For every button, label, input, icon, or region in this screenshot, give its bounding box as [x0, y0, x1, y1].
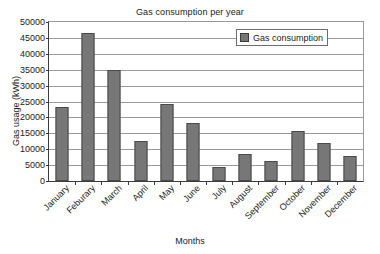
bar-slot [128, 22, 154, 181]
bar [291, 131, 304, 181]
x-axis-title: Months [0, 236, 380, 246]
y-axis-tick-label: 40000 [20, 49, 45, 59]
bar [56, 107, 69, 181]
legend: Gas consumption [236, 29, 328, 46]
x-axis-tick-label: June [181, 183, 202, 204]
bar-slot [206, 22, 232, 181]
y-axis-tick-label: 45000 [20, 33, 45, 43]
bar-slot [337, 22, 363, 181]
x-axis-tick-label: May [157, 183, 176, 202]
bar [134, 141, 147, 181]
y-axis-tick-label: 50000 [20, 17, 45, 27]
bar [82, 33, 95, 181]
y-axis-tick-label: 0 [40, 176, 45, 186]
bar-slot [154, 22, 180, 181]
x-axis-tick-label: July [210, 183, 228, 201]
legend-label-gas-consumption: Gas consumption [253, 33, 323, 43]
y-axis-tick-label: 10000 [20, 144, 45, 154]
bar [317, 143, 330, 181]
bar-slot [180, 22, 206, 181]
y-axis-tick-label: 15000 [20, 128, 45, 138]
y-axis-tick-label: 20000 [20, 112, 45, 122]
x-axis-tick-label: March [99, 183, 124, 208]
bar [186, 123, 199, 182]
x-axis-tick-labels: JanuaryFeburaryMarchAprilMayJuneJulyAugu… [48, 183, 364, 235]
x-axis-tick-label: April [130, 183, 150, 203]
y-axis-tick-mark [46, 181, 49, 182]
y-axis-tick-label: 25000 [20, 97, 45, 107]
bar [160, 104, 173, 181]
bar-chart: Gas consumption per year Gas usage (kWh)… [0, 0, 380, 254]
y-axis-tick-label: 5000 [25, 160, 45, 170]
bar [239, 154, 252, 181]
legend-swatch-gas-consumption [240, 33, 249, 42]
y-axis-tick-label: 30000 [20, 81, 45, 91]
bar [343, 156, 356, 181]
bar-slot [75, 22, 101, 181]
bar [108, 70, 121, 181]
chart-title: Gas consumption per year [0, 7, 380, 17]
bar [213, 167, 226, 181]
y-axis-tick-label: 35000 [20, 65, 45, 75]
bar-slot [101, 22, 127, 181]
bar [265, 161, 278, 181]
bar-slot [49, 22, 75, 181]
